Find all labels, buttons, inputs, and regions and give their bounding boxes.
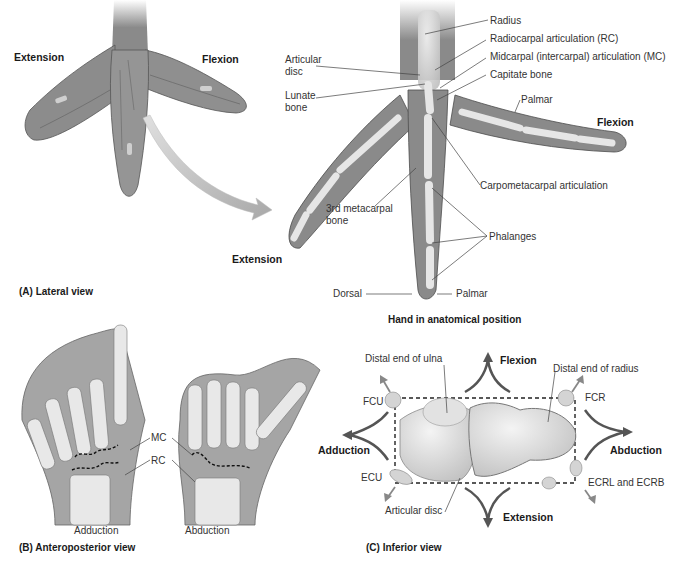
- label-phalanges: Phalanges: [489, 231, 536, 243]
- label-radiocarpal-articulation: Radiocarpal articulation (RC): [490, 33, 618, 45]
- title-hand-anatomical-position: Hand in anatomical position: [388, 314, 521, 326]
- label-flexion-lateral: Flexion: [202, 53, 239, 65]
- label-adduction-ap: Adduction: [74, 525, 118, 537]
- label-palmar-bottom: Palmar: [456, 288, 488, 300]
- label-capitate-bone: Capitate bone: [490, 69, 552, 81]
- label-lunate-line2: bone: [285, 102, 307, 114]
- label-articular-disc-line1: Articular: [285, 54, 322, 66]
- inferior-view-drawing: [342, 352, 633, 528]
- label-extension-lateral: Extension: [14, 51, 64, 63]
- label-articular-disc-inferior: Articular disc: [385, 505, 442, 517]
- caption-lateral-view: (A) Lateral view: [19, 286, 93, 298]
- label-palmar-top: Palmar: [521, 94, 553, 106]
- label-lunate-line1: Lunate: [285, 90, 316, 102]
- label-3rd-metacarpal-line2: bone: [326, 215, 348, 227]
- label-ecrl-ecrb: ECRL and ECRB: [588, 477, 664, 489]
- anteroposterior-hands-drawing: [22, 325, 320, 525]
- label-ecu: ECU: [361, 472, 382, 484]
- label-flexion-anatomical: Flexion: [597, 116, 634, 128]
- label-carpometacarpal: Carpometacarpal articulation: [480, 180, 608, 192]
- caption-inferior-view: (C) Inferior view: [366, 542, 442, 554]
- label-rc: RC: [151, 455, 165, 467]
- label-mc: MC: [151, 432, 167, 444]
- label-extension-anatomical: Extension: [232, 253, 282, 265]
- label-radius: Radius: [490, 15, 521, 27]
- label-flexion-inferior: Flexion: [500, 354, 537, 366]
- label-distal-end-radius: Distal end of radius: [553, 363, 639, 375]
- label-articular-disc-line2: disc: [285, 66, 303, 78]
- anatomy-illustration: [0, 0, 679, 561]
- label-extension-inferior: Extension: [503, 511, 553, 523]
- label-dorsal: Dorsal: [333, 288, 362, 300]
- label-3rd-metacarpal-line1: 3rd metacarpal: [326, 203, 393, 215]
- label-midcarpal-articulation: Midcarpal (intercarpal) articulation (MC…: [490, 51, 666, 63]
- label-adduction-inferior: Adduction: [318, 444, 370, 456]
- label-abduction-ap: Abduction: [185, 525, 229, 537]
- label-fcr: FCR: [585, 392, 606, 404]
- label-distal-end-ulna: Distal end of ulna: [365, 353, 442, 365]
- lateral-hands-drawing: [25, 0, 272, 220]
- caption-anteroposterior-view: (B) Anteroposterior view: [19, 542, 135, 554]
- label-abduction-inferior: Abduction: [610, 444, 662, 456]
- label-fcu: FCU: [363, 396, 384, 408]
